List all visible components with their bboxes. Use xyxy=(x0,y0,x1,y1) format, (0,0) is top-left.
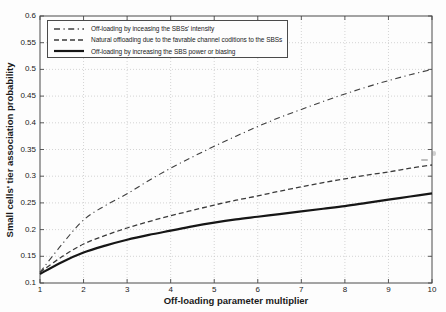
y-tick-label: 0.55 xyxy=(0,38,36,48)
x-tick-label: 4 xyxy=(161,285,181,294)
legend-label: Off-loading by increasing the SBS power … xyxy=(91,48,235,55)
legend-entry-sbs-power-biasing: Off-loading by increasing the SBS power … xyxy=(53,46,287,57)
y-tick-label: 0.2 xyxy=(0,225,36,235)
x-tick-label: 2 xyxy=(74,285,94,294)
y-tick-label: 0.4 xyxy=(0,118,36,128)
scan-artifact xyxy=(432,151,436,156)
series-line-solid xyxy=(40,193,432,274)
x-tick-label: 1 xyxy=(30,285,50,294)
dash-dot-line-sample-icon xyxy=(53,25,85,33)
legend: Off-loading by inceasing the SBSs' inten… xyxy=(47,20,288,58)
x-tick-label: 5 xyxy=(204,285,224,294)
legend-entry-natural-offloading: Natural offloading due to the favrable c… xyxy=(53,34,287,45)
scan-artifact xyxy=(421,159,428,161)
x-tick-label: 6 xyxy=(248,285,268,294)
x-axis-label: Off-loading parameter multiplier xyxy=(164,295,309,306)
legend-label: Natural offloading due to the favrable c… xyxy=(91,36,282,43)
y-tick-label: 0.5 xyxy=(0,64,36,74)
y-tick-label: 0.45 xyxy=(0,91,36,101)
chart-figure: Small cells' tier association probabilit… xyxy=(0,0,446,312)
x-tick-label: 7 xyxy=(291,285,311,294)
dashed-line-sample-icon xyxy=(53,36,85,44)
x-tick-label: 8 xyxy=(335,285,355,294)
x-tick-label: 10 xyxy=(422,285,442,294)
x-tick-label: 3 xyxy=(117,285,137,294)
legend-entry-sbs-intensity: Off-loading by inceasing the SBSs' inten… xyxy=(53,23,287,34)
solid-line-sample-icon xyxy=(53,47,85,55)
y-tick-label: 0.25 xyxy=(0,198,36,208)
y-tick-label: 0.3 xyxy=(0,171,36,181)
y-tick-label: 0.6 xyxy=(0,11,36,21)
legend-label: Off-loading by inceasing the SBSs' inten… xyxy=(91,25,214,32)
y-tick-label: 0.15 xyxy=(0,251,36,261)
series-line-dash-dot xyxy=(40,69,432,272)
y-tick-label: 0.35 xyxy=(0,145,36,155)
x-tick-label: 9 xyxy=(378,285,398,294)
